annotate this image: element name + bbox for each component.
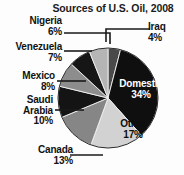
slice-label-other-name: Other — [111, 118, 155, 129]
slice-label-venezuela-name: Venezuela — [15, 42, 62, 53]
slice-label-venezuela-value: 7% — [15, 53, 62, 64]
slice-label-iraq-name: Iraq — [148, 22, 166, 33]
pie-chart-figure: Sources of U.S. Oil, 2008 Iraq 4% Nigeri… — [0, 0, 184, 175]
slice-label-domestic: Domestic 34% — [113, 78, 169, 100]
slice-label-other-value: 17% — [111, 129, 155, 140]
slice-label-nigeria-name: Nigeria — [29, 16, 62, 27]
slice-label-iraq-value: 4% — [148, 33, 166, 44]
slice-label-venezuela: Venezuela 7% — [15, 42, 62, 63]
slice-label-canada-value: 13% — [38, 156, 73, 167]
slice-label-canada: Canada 13% — [38, 145, 73, 166]
slice-label-other: Other 17% — [111, 118, 155, 140]
slice-label-mexico: Mexico 8% — [22, 71, 55, 92]
leader-line-iraq — [106, 29, 150, 42]
slice-label-saudi-arabia-value: 10% — [23, 116, 53, 127]
slice-label-saudi-arabia: Saudi Arabia 10% — [23, 95, 53, 127]
leader-line-nigeria — [64, 33, 110, 44]
slice-label-mexico-name: Mexico — [22, 71, 55, 82]
slice-label-domestic-name: Domestic — [113, 78, 169, 89]
slice-label-iraq: Iraq 4% — [148, 22, 166, 43]
slice-label-canada-name: Canada — [38, 145, 73, 156]
slice-label-saudi-arabia-name-line1: Saudi — [23, 95, 53, 106]
slice-label-nigeria: Nigeria 6% — [29, 16, 62, 37]
slice-label-mexico-value: 8% — [22, 82, 55, 93]
slice-label-domestic-value: 34% — [113, 89, 169, 100]
slice-label-nigeria-value: 6% — [29, 27, 62, 38]
